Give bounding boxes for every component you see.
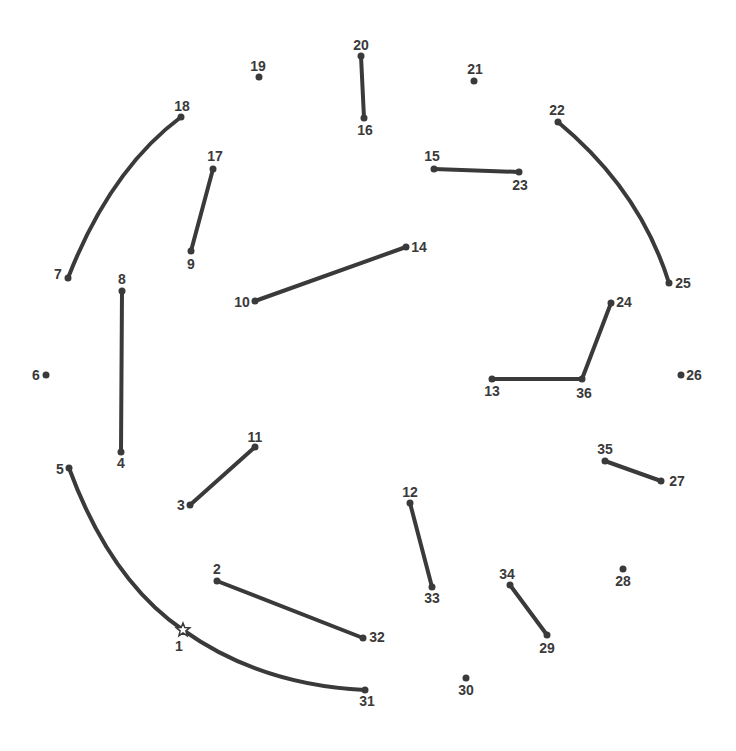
dot-label-24: 24 <box>616 294 632 310</box>
dot-label-27: 27 <box>669 473 685 489</box>
dot-26 <box>678 372 685 379</box>
dot-puzzle-drawing: 1234567891011121314151617181920212223242… <box>0 0 736 751</box>
line-36-24 <box>582 303 611 379</box>
line-34-29 <box>510 585 547 635</box>
line-15-23 <box>434 169 519 172</box>
dot-label-30: 30 <box>458 682 474 698</box>
dot-14 <box>403 244 410 251</box>
dot-label-13: 13 <box>484 383 500 399</box>
dot-30 <box>463 675 470 682</box>
line-35-27 <box>605 461 661 481</box>
dot-13 <box>489 376 496 383</box>
dot-28 <box>620 566 627 573</box>
dot-label-22: 22 <box>549 102 565 118</box>
dot-label-9: 9 <box>187 256 195 272</box>
dot-18 <box>178 114 185 121</box>
dot-label-1: 1 <box>175 638 183 654</box>
dot-label-14: 14 <box>411 239 427 255</box>
dot-24 <box>608 300 615 307</box>
dot-label-8: 8 <box>118 271 126 287</box>
dot-label-20: 20 <box>353 37 369 53</box>
dot-10 <box>252 298 259 305</box>
dot-35 <box>602 458 609 465</box>
dot-label-36: 36 <box>576 385 592 401</box>
line-17-9 <box>191 169 213 251</box>
dot-label-31: 31 <box>359 693 375 709</box>
line-12-33 <box>410 503 432 587</box>
dot-label-6: 6 <box>32 367 40 383</box>
dot-23 <box>516 169 523 176</box>
dot-label-18: 18 <box>174 98 190 114</box>
dot-label-23: 23 <box>512 177 528 193</box>
dot-label-29: 29 <box>539 640 555 656</box>
dot-label-33: 33 <box>424 590 440 606</box>
dot-19 <box>256 74 263 81</box>
dot-label-12: 12 <box>402 484 418 500</box>
connecting-lines <box>68 56 669 690</box>
dot-label-19: 19 <box>250 58 266 74</box>
dot-label-10: 10 <box>234 294 250 310</box>
dot-label-3: 3 <box>177 497 185 513</box>
dot-17 <box>210 166 217 173</box>
dot-8 <box>119 288 126 295</box>
dot-puzzle-canvas: 1234567891011121314151617181920212223242… <box>0 0 736 751</box>
line-11-3 <box>190 447 255 505</box>
dot-label-34: 34 <box>499 566 515 582</box>
dot-21 <box>471 78 478 85</box>
line-8-4 <box>121 291 122 452</box>
dot-12 <box>407 500 414 507</box>
dot-label-2: 2 <box>213 561 221 577</box>
dot-2 <box>214 578 221 585</box>
arc-22-25 <box>558 122 669 283</box>
dot-label-5: 5 <box>56 461 64 477</box>
dot-32 <box>360 635 367 642</box>
dot-label-15: 15 <box>424 148 440 164</box>
dot-label-11: 11 <box>248 429 263 445</box>
line-20-16 <box>361 56 364 118</box>
dot-label-7: 7 <box>54 266 62 282</box>
dot-29 <box>544 632 551 639</box>
dot-25 <box>666 280 673 287</box>
dot-36 <box>579 376 586 383</box>
dot-6 <box>43 372 50 379</box>
dot-22 <box>555 119 562 126</box>
dot-label-21: 21 <box>467 61 483 77</box>
line-2-32 <box>217 581 363 638</box>
line-10-14 <box>255 247 406 301</box>
dot-label-28: 28 <box>615 573 631 589</box>
dot-5 <box>66 465 73 472</box>
dot-15 <box>431 166 438 173</box>
dot-20 <box>358 53 365 60</box>
dot-34 <box>507 582 514 589</box>
labels-layer: 1234567891011121314151617181920212223242… <box>32 37 702 709</box>
dot-label-35: 35 <box>597 441 613 457</box>
dot-label-25: 25 <box>675 275 691 291</box>
dot-16 <box>361 115 368 122</box>
dot-label-17: 17 <box>207 148 223 164</box>
dot-label-32: 32 <box>369 629 385 645</box>
dot-9 <box>188 248 195 255</box>
dot-3 <box>187 502 194 509</box>
arc-7-18 <box>68 117 181 278</box>
dot-label-16: 16 <box>357 122 373 138</box>
dot-label-4: 4 <box>117 455 125 471</box>
dot-27 <box>658 478 665 485</box>
dot-7 <box>65 275 72 282</box>
dot-label-26: 26 <box>686 367 702 383</box>
